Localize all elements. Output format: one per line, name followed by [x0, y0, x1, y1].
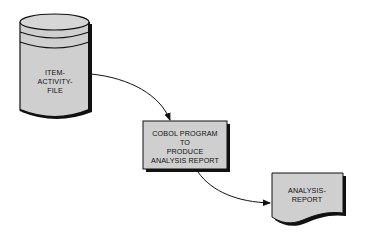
svg-text:ANALYSIS REPORT: ANALYSIS REPORT [151, 156, 219, 165]
arrow-file-to-program [91, 74, 170, 120]
svg-text:ANALYSIS-: ANALYSIS- [288, 186, 326, 195]
svg-text:REPORT: REPORT [292, 195, 323, 204]
svg-text:ITEM-: ITEM- [45, 68, 66, 77]
svg-text:ACTIVITY-: ACTIVITY- [38, 77, 73, 86]
svg-text:TO: TO [180, 138, 190, 147]
item-activity-file-cylinder [20, 14, 92, 119]
svg-text:COBOL PROGRAM: COBOL PROGRAM [152, 129, 217, 138]
arrow-program-to-report [198, 172, 270, 203]
flowchart-canvas: ITEM- ACTIVITY- FILE COBOL PROGRAM TO PR… [0, 0, 372, 242]
svg-text:FILE: FILE [47, 86, 63, 95]
analysis-report-label: ANALYSIS- REPORT [288, 186, 326, 204]
svg-text:PRODUCE: PRODUCE [167, 147, 204, 156]
